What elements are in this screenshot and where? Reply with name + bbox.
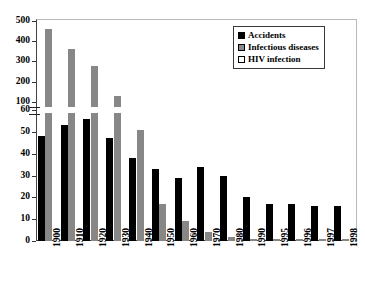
- y-axis-tick-label: 500: [0, 16, 30, 26]
- y-axis-tick-label: 200: [0, 77, 30, 87]
- legend-swatch-icon: [238, 32, 245, 39]
- x-axis-tick-label: 1995: [280, 228, 290, 247]
- bar-accidents: [83, 119, 90, 241]
- bar-infectious-diseases: [319, 239, 326, 241]
- bar-infectious-diseases: [296, 239, 303, 241]
- bar-accidents: [61, 125, 68, 241]
- x-axis-tick-label: 1900: [52, 228, 62, 247]
- x-axis-tick-label: 1996: [303, 228, 313, 247]
- legend-item: Infectious diseases: [238, 42, 319, 53]
- y-axis-tick-mark: [32, 102, 36, 103]
- x-axis-tick-label: 1960: [189, 228, 199, 247]
- y-axis-tick-label: 0: [0, 236, 30, 246]
- bar-accidents: [106, 138, 113, 241]
- bar-infectious-diseases: [342, 239, 349, 241]
- y-axis-tick-label: 60: [0, 105, 30, 115]
- y-axis-tick-label: 50: [0, 127, 30, 137]
- x-axis-tick-label: 1990: [257, 228, 267, 247]
- x-axis-tick-label: 1997: [326, 228, 336, 247]
- x-axis-tick-label: 1998: [349, 228, 359, 247]
- y-axis-tick-label: 10: [0, 214, 30, 224]
- bar-chart: 5004003002001006050403020100 19001910192…: [0, 0, 365, 292]
- y-axis-tick-mark: [32, 61, 36, 62]
- bar-infectious-diseases: [228, 237, 235, 241]
- x-axis-tick-label: 1970: [212, 228, 222, 247]
- x-axis-tick-label: 1930: [121, 228, 131, 247]
- bar-accidents: [38, 136, 45, 241]
- y-axis-tick-mark: [32, 241, 36, 242]
- x-axis-tick-label: 1910: [75, 228, 85, 247]
- x-axis-tick-label: 1980: [235, 228, 245, 247]
- bar-infectious-diseases: [45, 29, 52, 241]
- x-axis-tick-label: 1940: [144, 228, 154, 247]
- bar-infectious-diseases: [114, 96, 121, 241]
- legend-swatch-icon: [238, 56, 245, 63]
- y-axis-tick-mark: [32, 110, 36, 111]
- axis-break-upper: [29, 107, 40, 108]
- y-axis-tick-mark: [32, 132, 36, 133]
- y-axis-tick-label: 40: [0, 149, 30, 159]
- bar-infectious-diseases: [91, 66, 98, 242]
- legend-item-label: Infectious diseases: [248, 43, 319, 52]
- chart-legend: AccidentsInfectious diseasesHIV infectio…: [233, 26, 325, 69]
- y-axis-tick-mark: [32, 21, 36, 22]
- bar-infectious-diseases: [137, 130, 144, 241]
- y-axis-tick-label: 400: [0, 36, 30, 46]
- legend-item: Accidents: [238, 30, 319, 41]
- legend-item: HIV infection: [238, 54, 319, 65]
- y-axis-tick-mark: [32, 176, 36, 177]
- legend-swatch-icon: [238, 44, 245, 51]
- y-axis-tick-mark: [32, 197, 36, 198]
- legend-item-label: HIV infection: [248, 55, 301, 64]
- y-axis-tick-mark: [32, 82, 36, 83]
- legend-item-label: Accidents: [248, 31, 286, 40]
- y-axis-tick-label: 300: [0, 56, 30, 66]
- y-axis-tick-mark: [32, 219, 36, 220]
- bar-infectious-diseases: [68, 49, 75, 241]
- y-axis-tick-label: 20: [0, 192, 30, 202]
- x-axis-tick-label: 1950: [166, 228, 176, 247]
- y-axis-tick-mark: [32, 154, 36, 155]
- bar-infectious-diseases: [205, 232, 212, 241]
- y-axis-tick-mark: [32, 41, 36, 42]
- x-axis-tick-label: 1920: [98, 228, 108, 247]
- y-axis-tick-label: 30: [0, 171, 30, 181]
- axis-break-lower: [29, 114, 40, 115]
- y-axis: 5004003002001006050403020100: [0, 0, 36, 292]
